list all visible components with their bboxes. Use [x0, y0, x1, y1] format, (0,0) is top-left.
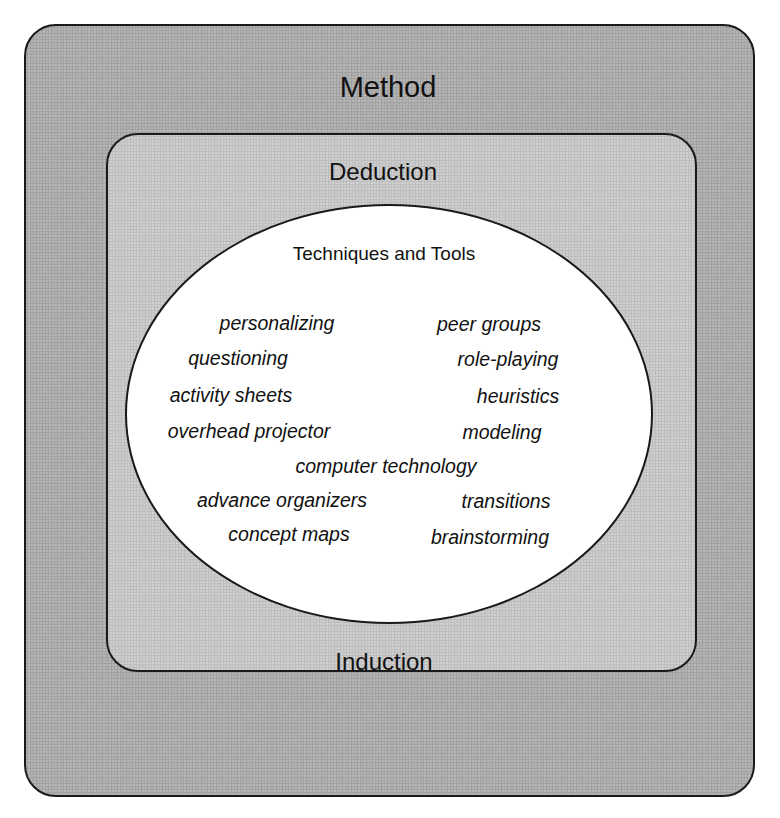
induction-label: Induction: [335, 650, 432, 674]
technique-item: heuristics: [477, 387, 559, 407]
deduction-label: Deduction: [329, 160, 437, 184]
method-label: Method: [340, 73, 437, 102]
technique-item: concept maps: [228, 525, 349, 545]
technique-item: brainstorming: [431, 528, 549, 548]
technique-item: role-playing: [458, 350, 559, 370]
technique-item: personalizing: [220, 314, 335, 334]
technique-item: questioning: [188, 349, 288, 369]
technique-item: modeling: [462, 423, 541, 443]
techniques-tools-title: Techniques and Tools: [293, 244, 475, 263]
technique-item: peer groups: [437, 315, 541, 335]
technique-item: advance organizers: [197, 491, 367, 511]
technique-item: transitions: [462, 492, 551, 512]
technique-item: overhead projector: [168, 422, 331, 442]
technique-item: activity sheets: [170, 386, 292, 406]
technique-item: computer technology: [295, 457, 476, 477]
techniques-tools-ellipse: [125, 204, 653, 624]
